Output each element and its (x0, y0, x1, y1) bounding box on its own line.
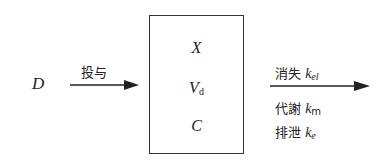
volume-main: V (189, 79, 199, 96)
volume-sub: d (199, 86, 204, 97)
output-arrow-head (354, 81, 370, 91)
metabolism-label: 代謝 km (275, 98, 321, 117)
metabolism-k-sub: m (311, 106, 321, 117)
excretion-label: 排泄 ke (275, 122, 316, 141)
excretion-k-sub: e (311, 130, 315, 141)
excretion-text: 排泄 (275, 125, 301, 140)
dose-symbol: D (32, 74, 44, 94)
volume-variable: Vd (149, 79, 244, 97)
input-arrow-head (124, 80, 139, 90)
input-arrow (68, 78, 140, 92)
amount-variable: X (149, 39, 244, 57)
output-arrow (268, 79, 372, 93)
metabolism-text: 代謝 (275, 101, 301, 116)
concentration-variable: C (149, 117, 244, 135)
